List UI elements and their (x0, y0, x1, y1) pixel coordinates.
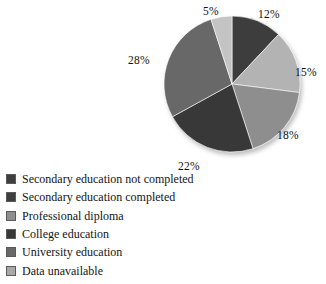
legend-item-label: Data unavailable (22, 265, 103, 277)
legend-swatch-icon (6, 192, 16, 202)
legend-item-label: University education (22, 246, 122, 258)
legend-swatch-icon (6, 174, 16, 184)
legend-item: University education (6, 243, 306, 261)
legend-swatch-icon (6, 229, 16, 239)
slice-label-18: 18% (277, 129, 299, 141)
legend-swatch-icon (6, 247, 16, 257)
legend-swatch-icon (6, 211, 16, 221)
slice-label-5: 5% (203, 5, 219, 17)
legend-item: Professional diploma (6, 207, 306, 225)
slice-label-28: 28% (128, 54, 150, 66)
legend-item-label: Secondary education not completed (22, 173, 194, 185)
chart-legend: Secondary education not completedSeconda… (6, 170, 306, 280)
legend-swatch-icon (6, 266, 16, 276)
pie-chart: 5% 12% 15% 18% 22% 28% (0, 0, 326, 165)
legend-item-label: College education (22, 228, 109, 240)
slice-label-12: 12% (258, 8, 280, 20)
legend-item-label: Professional diploma (22, 210, 124, 222)
legend-item-label: Secondary education completed (22, 191, 175, 203)
legend-item: Secondary education not completed (6, 170, 306, 188)
legend-item: Data unavailable (6, 261, 306, 279)
legend-item: Secondary education completed (6, 188, 306, 206)
legend-item: College education (6, 225, 306, 243)
slice-label-15: 15% (295, 66, 317, 78)
